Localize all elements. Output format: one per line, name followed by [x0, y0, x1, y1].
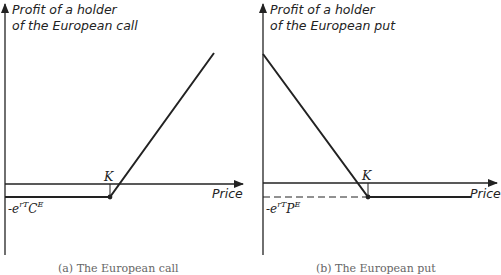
call-profit-chart: Profit of a holder of the European call …: [0, 0, 250, 271]
strike-point: [366, 195, 371, 200]
strike-label: K: [104, 169, 113, 184]
premium-label: -erTPE: [266, 200, 300, 216]
put-profit-chart: Profit of a holder of the European put K…: [250, 0, 498, 271]
strike-point: [108, 195, 113, 200]
put-chart-plot: [250, 0, 498, 271]
y-axis-label: Profit of a holder of the European put: [270, 2, 395, 34]
call-chart-plot: [0, 0, 250, 271]
x-axis-label: Price: [212, 186, 243, 201]
premium-label: -erTCE: [8, 200, 43, 216]
strike-label: K: [362, 168, 371, 183]
chart-caption: (b) The European put: [316, 262, 436, 275]
x-axis-label: Price: [470, 186, 501, 201]
y-axis-label: Profit of a holder of the European call: [12, 2, 138, 34]
chart-caption: (a) The European call: [58, 262, 179, 275]
